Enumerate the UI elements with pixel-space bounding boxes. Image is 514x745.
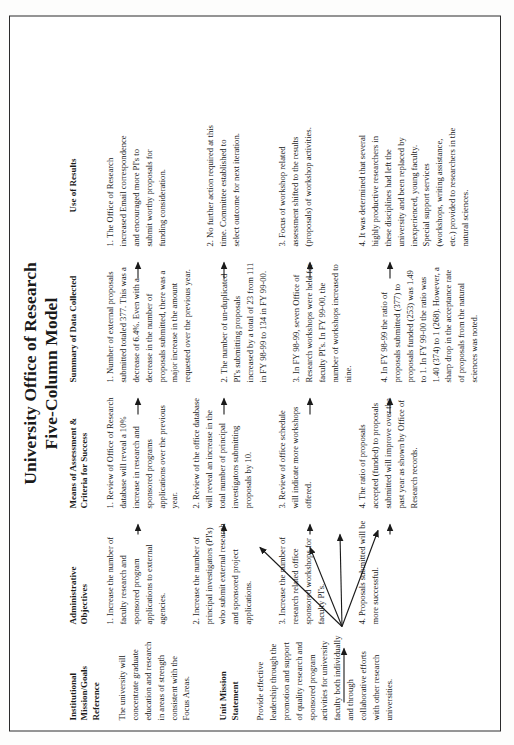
title-line-1: University Office of Research [20, 16, 41, 730]
use-of-results-item-2: 2. No further action required at this ti… [204, 124, 243, 246]
column-use-of-results: Use of Results 1. The Office of Research… [68, 124, 492, 246]
page-title: University Office of Research Five-Colum… [20, 16, 63, 730]
means-item-1: 1. Review of Office of Research database… [104, 396, 181, 508]
unit-mission-statement-header: Unit Mission Statement [218, 634, 241, 720]
means-item-4: 4. The ratio of proposals accepted (fund… [356, 396, 420, 508]
means-item-2: 2. Review of the office database will re… [190, 396, 254, 508]
column-header-data: Summary of Data Collected [68, 262, 79, 382]
column-header-mission: Institutional Mission/Goals Reference [68, 634, 102, 720]
objective-item-1: 1. Increase the number of faculty resear… [104, 520, 168, 624]
column-summary-of-data-collected: Summary of Data Collected 1. Number of e… [68, 262, 492, 382]
column-header-means: Means of Assessment & Criteria for Succe… [68, 396, 91, 508]
use-of-results-item-4: 4. It was determined that several highly… [356, 124, 472, 246]
column-header-results: Use of Results [68, 124, 79, 246]
rotated-document-canvas: University Office of Research Five-Colum… [0, 0, 514, 745]
column-administrative-objectives: Administrative Objectives 1. Increase th… [68, 520, 492, 624]
data-item-4: 4. In FY 98-99 the ratio of proposals su… [378, 262, 481, 382]
means-item-3: 3. Review of office schedule will indica… [276, 396, 315, 508]
data-item-1: 1. Number of external proposals submitte… [104, 262, 194, 382]
objective-item-4: 4. Proposals submitted will be more succ… [356, 520, 382, 624]
unit-mission-statement-body: Provide effective leadership through the… [254, 634, 396, 720]
objective-item-3: 3. Increase the number of research relat… [276, 520, 328, 624]
objective-item-2: 2. Increase the number of principal inve… [190, 520, 254, 624]
use-of-results-item-1: 1. The Office of Research increased Emai… [104, 124, 168, 246]
title-line-2: Five-Column Model [41, 16, 62, 730]
five-column-model-table: Institutional Mission/Goals Reference Th… [68, 24, 492, 720]
institutional-mission-body: The university will concentrate graduate… [116, 634, 193, 720]
data-item-2: 2. The number of un-duplicated PI's subm… [218, 262, 270, 382]
scanned-page: University Office of Research Five-Colum… [0, 0, 514, 745]
column-means-of-assessment: Means of Assessment & Criteria for Succe… [68, 396, 492, 508]
use-of-results-item-3: 3. Focus of workshop related assessment … [276, 124, 315, 246]
column-institutional-mission: Institutional Mission/Goals Reference Th… [68, 634, 492, 720]
page-frame: University Office of Research Five-Colum… [9, 15, 501, 731]
column-header-objectives: Administrative Objectives [68, 520, 91, 624]
data-item-3: 3. In FY 98-99, seven Office of Research… [290, 262, 354, 382]
